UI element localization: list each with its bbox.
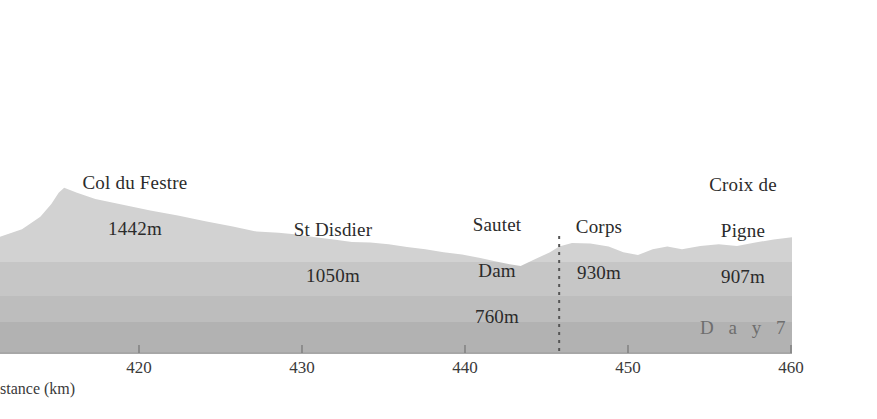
annotation-sautet-dam-elevation: 760m (443, 305, 551, 328)
annotation-croix-de-pigne: Croix de Pigne 907m (673, 150, 813, 311)
annotation-sautet-dam-name-2: Dam (443, 259, 551, 282)
x-axis-title: stance (km) (0, 380, 75, 398)
annotation-col-du-festre-elevation: 1442m (20, 217, 250, 240)
annotation-st-disdier-name: St Disdier (248, 218, 418, 241)
annotation-corps-name: Corps (546, 215, 652, 238)
annotation-croix-de-pigne-name-1: Croix de (673, 173, 813, 196)
annotation-corps: Corps 930m (546, 192, 652, 307)
annotation-croix-de-pigne-elevation: 907m (673, 265, 813, 288)
x-tick-label-450: 450 (598, 358, 658, 377)
annotation-sautet-dam: Sautet Dam 760m (443, 190, 551, 351)
day-marker-label: D a y 7 (700, 317, 790, 338)
annotation-st-disdier: St Disdier 1050m (248, 195, 418, 310)
annotation-sautet-dam-name-1: Sautet (443, 213, 551, 236)
annotation-croix-de-pigne-name-2: Pigne (673, 219, 813, 242)
annotation-corps-elevation: 930m (546, 261, 652, 284)
x-tick-label-430: 430 (272, 358, 332, 377)
annotation-col-du-festre-name: Col du Festre (20, 171, 250, 194)
x-tick-label-440: 440 (435, 358, 495, 377)
x-tick-label-460: 460 (761, 358, 821, 377)
annotation-st-disdier-elevation: 1050m (248, 264, 418, 287)
x-tick-label-420: 420 (109, 358, 169, 377)
elevation-profile-figure: Col du Festre 1442m St Disdier 1050m Sau… (0, 0, 877, 419)
annotation-col-du-festre: Col du Festre 1442m (20, 148, 250, 263)
